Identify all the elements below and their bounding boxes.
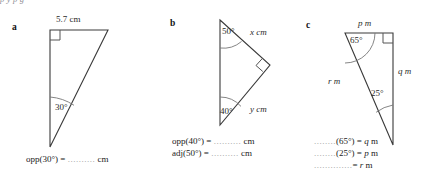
part-b-answer-1-unit: cm bbox=[243, 136, 254, 146]
part-c-upper-angle-label: 65° bbox=[350, 35, 363, 45]
part-b-lower-angle-label: 40° bbox=[220, 106, 233, 116]
part-c-top-side-label: p m bbox=[358, 18, 371, 28]
part-c-answer-line-1: ........(65°) = q m bbox=[314, 136, 378, 146]
part-b-lower-side-label: y cm bbox=[250, 104, 267, 114]
part-c-answer-2-blank[interactable]: ........ bbox=[314, 148, 336, 158]
part-a-angle-label: 30° bbox=[55, 102, 68, 112]
part-a-figure bbox=[0, 0, 150, 160]
part-b-answer-2-unit: cm bbox=[241, 148, 252, 158]
part-b-upper-angle-label: 50° bbox=[222, 26, 235, 36]
part-c-right-side-label: q m bbox=[398, 66, 411, 76]
part-c-answer-line-2: ........(25°) = p m bbox=[314, 148, 378, 158]
part-c-answer-2-prefix: (25°) = bbox=[336, 148, 364, 158]
angle-arc-b-lower bbox=[220, 97, 241, 106]
part-c-answer-1-blank[interactable]: ........ bbox=[314, 136, 336, 146]
triangle-outline-c bbox=[345, 33, 393, 145]
part-b: b 50° 40° x cm y cm opp(40°) = .........… bbox=[146, 0, 292, 185]
worksheet-page: p y p g a bbox=[0, 0, 436, 185]
part-b-answer-2-blank[interactable]: .......... bbox=[211, 148, 239, 158]
right-angle-marker-a bbox=[50, 30, 60, 40]
part-c-lower-angle-label: 25° bbox=[371, 88, 384, 98]
part-c-answer-2-value: p bbox=[364, 148, 369, 158]
part-c-answer-2-unit: m bbox=[371, 148, 378, 158]
part-c: c p m q m r m 65° 25° ........(65°) = q … bbox=[288, 0, 436, 185]
part-b-answer-2-prefix: adj(50°) = bbox=[172, 148, 211, 158]
part-b-upper-side-label: x cm bbox=[250, 27, 267, 37]
part-c-answer-line-3: ..............= r m bbox=[314, 160, 373, 170]
part-c-answer-1-prefix: (65°) = bbox=[336, 136, 364, 146]
part-a-top-side-label: 5.7 cm bbox=[56, 14, 81, 24]
part-b-answer-1-prefix: opp(40°) = bbox=[172, 136, 214, 146]
part-b-answer-line-1: opp(40°) = .......... cm bbox=[172, 136, 254, 146]
part-c-answer-3-prefix: = bbox=[353, 160, 360, 170]
part-b-answer-line-2: adj(50°) = .......... cm bbox=[172, 148, 252, 158]
right-angle-marker-c bbox=[383, 33, 393, 43]
angle-arc-b-upper bbox=[220, 42, 242, 49]
part-a-answer-blank[interactable]: .......... bbox=[68, 154, 96, 164]
part-a: a 5.7 cm 30° opp(30°) = .......... cm bbox=[0, 0, 150, 185]
part-c-answer-3-blank[interactable]: .............. bbox=[314, 160, 353, 170]
right-angle-marker-b bbox=[256, 58, 263, 71]
part-c-answer-1-value: q bbox=[364, 136, 369, 146]
part-a-answer-unit-text: cm bbox=[97, 154, 108, 164]
part-a-answer-line-1: opp(30°) = .......... cm bbox=[26, 154, 108, 164]
triangle-outline-a bbox=[50, 30, 108, 147]
part-c-answer-3-unit: m bbox=[366, 160, 373, 170]
part-c-hyp-side-label: r m bbox=[328, 76, 340, 86]
part-c-answer-1-unit: m bbox=[371, 136, 378, 146]
part-b-answer-1-blank[interactable]: .......... bbox=[214, 136, 242, 146]
part-a-answer-prefix: opp(30°) = bbox=[26, 154, 68, 164]
